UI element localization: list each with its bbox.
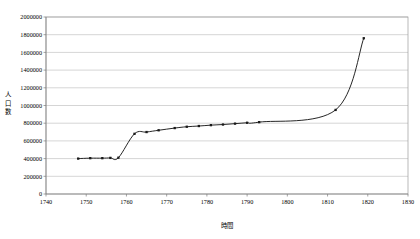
population-line-chart: 0200000400000600000800000100000012000001…: [0, 0, 420, 239]
data-point-marker: [117, 157, 119, 159]
y-tick-label: 800000: [23, 119, 42, 126]
data-point-marker: [246, 122, 248, 124]
data-point-marker: [363, 37, 365, 39]
data-point-marker: [174, 127, 176, 129]
data-point-marker: [258, 121, 260, 123]
data-point-marker: [222, 123, 224, 125]
chart-canvas: 0200000400000600000800000100000012000001…: [0, 0, 420, 239]
y-axis-title-char: 数: [5, 107, 12, 116]
data-point-marker: [234, 122, 236, 124]
data-point-marker: [133, 133, 135, 135]
y-axis-title: 人口数: [5, 91, 12, 116]
y-tick-label: 400000: [23, 155, 42, 162]
x-tick-label: 1830: [402, 198, 414, 205]
data-point-marker: [89, 157, 91, 159]
x-tick-label: 1770: [160, 198, 172, 205]
y-tick-label: 1400000: [20, 66, 42, 73]
y-tick-label: 2000000: [20, 13, 42, 20]
y-axis-title-char: 人: [5, 91, 12, 98]
y-tick-label: 1600000: [20, 49, 42, 56]
y-tick-label: 600000: [23, 137, 42, 144]
data-point-marker: [145, 131, 147, 133]
x-tick-label: 1820: [362, 198, 374, 205]
data-point-marker: [109, 157, 111, 159]
y-axis-title-char: 口: [5, 100, 11, 107]
y-tick-label: 1200000: [20, 84, 42, 91]
x-tick-label: 1780: [201, 198, 213, 205]
x-tick-label: 1800: [281, 198, 293, 205]
x-tick-label: 1810: [321, 198, 333, 205]
x-tick-label: 1790: [241, 198, 253, 205]
data-point-marker: [157, 129, 159, 131]
data-point-marker: [334, 109, 336, 111]
y-tick-label: 200000: [23, 173, 42, 180]
data-point-marker: [186, 126, 188, 128]
x-tick-label: 1760: [120, 198, 132, 205]
x-tick-label: 1750: [80, 198, 92, 205]
data-point-marker: [210, 124, 212, 126]
y-tick-label: 1000000: [20, 102, 42, 109]
y-tick-label: 0: [39, 190, 42, 197]
x-axis-title: 時間: [221, 222, 233, 230]
x-tick-label: 1740: [40, 198, 52, 205]
y-axis-ticks: 0200000400000600000800000100000012000001…: [20, 13, 46, 197]
x-axis-ticks: 1740175017601770178017901800181018201830: [40, 194, 414, 205]
data-point-marker: [101, 157, 103, 159]
data-point-marker: [77, 157, 79, 159]
data-point-marker: [198, 125, 200, 127]
y-tick-label: 1800000: [20, 31, 42, 38]
